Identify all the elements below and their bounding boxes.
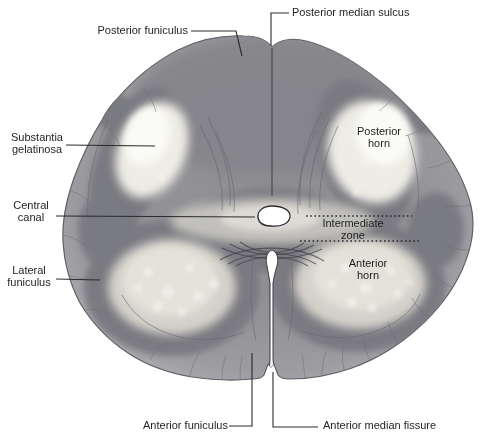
spinal-cord-figure: Posterior median sulcus Posterior funicu… bbox=[0, 0, 499, 439]
label-posterior-horn: Posterior horn bbox=[348, 126, 410, 149]
label-substantia-gelatinosa: Substantia gelatinosa bbox=[6, 132, 68, 155]
label-intermediate-zone: Intermediate zone bbox=[311, 218, 395, 241]
leader-anterior-median-fissure bbox=[273, 372, 318, 427]
label-lateral-funiculus: Lateral funiculus bbox=[2, 265, 56, 288]
label-anterior-median-fissure: Anterior median fissure bbox=[323, 420, 436, 432]
anterior-horn-right-region bbox=[294, 237, 426, 329]
label-posterior-funiculus: Posterior funiculus bbox=[98, 25, 189, 37]
label-anterior-horn: Anterior horn bbox=[339, 258, 397, 281]
label-anterior-funiculus: Anterior funiculus bbox=[143, 420, 228, 432]
label-posterior-median-sulcus: Posterior median sulcus bbox=[292, 7, 409, 19]
spinal-cord-illustration bbox=[0, 0, 499, 439]
label-central-canal: Central canal bbox=[8, 200, 54, 223]
central-canal-shape bbox=[258, 206, 290, 226]
